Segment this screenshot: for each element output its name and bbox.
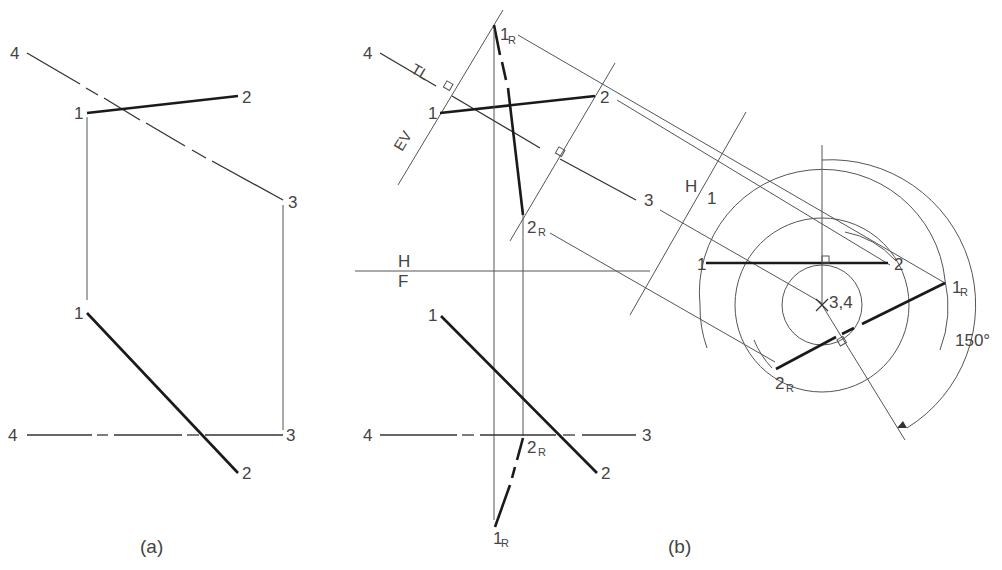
label-1r: 1 R [952,278,968,298]
label-2: 2 [600,88,609,107]
svg-text:R: R [501,537,509,549]
caption-b: (b) [668,536,691,557]
fold-label-h: H [398,252,410,271]
label-3: 3 [642,426,651,445]
view-a: 4 1 2 3 1 2 3 4 (a) [8,44,297,557]
label-1: 1 [428,306,437,325]
angle-label: 150° [955,331,990,350]
line-4-3-dash [86,88,98,95]
fold-line-h-f: H F [355,252,650,291]
label-4: 4 [8,426,17,445]
rotation-arc-2 [845,232,895,260]
view-a-front: 1 2 3 4 [8,304,295,483]
line-1r-2r-dash [502,62,506,80]
svg-text:R: R [538,226,546,238]
label-3: 3 [288,193,297,212]
tl-label: TL [409,60,433,83]
label-1: 1 [697,255,706,274]
line-1r-2r-segment [495,485,510,527]
rotation-arc-1-end [940,280,948,350]
line-4-3-segment [212,161,283,200]
line-1r-2r-segment [862,283,945,324]
line-4-3-dash [192,150,206,158]
line-1r-2r-segment [508,88,523,215]
arrowhead-icon [897,421,907,428]
svg-text:R: R [508,34,516,46]
label-4: 4 [10,44,19,63]
svg-text:R: R [538,446,546,458]
line-1r-2r-segment [517,438,523,460]
label-2r: 2 R [527,218,546,238]
line-1-2 [440,96,595,113]
view-b-top: TL EV 4 1 2 3 [363,10,945,520]
fold-label-h: H [685,177,697,196]
view-b-front: 1 2 3 4 2 R 1 R [363,306,651,549]
svg-text:R: R [960,286,968,298]
svg-text:2: 2 [527,438,536,457]
line-1-2 [87,96,238,113]
rotated-reference-line [822,305,905,440]
svg-text:R: R [786,382,794,394]
line-4-3-segment [146,123,185,146]
label-2: 2 [242,464,251,483]
label-3: 3 [286,426,295,445]
projector-2-aux [617,100,890,265]
rotation-arc-1-tail [700,305,707,348]
right-angle-mark [443,81,453,91]
label-3: 3 [644,191,653,210]
label-2: 2 [242,88,251,107]
ev-label: EV [390,128,415,154]
rotation-arc-2r [754,340,772,368]
svg-text:2: 2 [775,374,784,393]
svg-text:2: 2 [527,218,536,237]
caption-a: (a) [140,536,163,557]
label-1: 1 [428,104,437,123]
projector-2r-aux [550,233,775,362]
view-b: TL EV 4 1 2 3 [355,10,990,557]
line-4-3-segment [560,159,636,200]
label-1r: 1 R [500,25,516,46]
fold-label-1: 1 [707,189,716,208]
line-1-2 [87,313,238,473]
label-2: 2 [894,255,903,274]
projector-3-aux [660,210,822,303]
view-a-top: 4 1 2 3 [10,44,297,430]
label-2: 2 [601,464,610,483]
label-1: 1 [74,304,83,323]
line-4-3-segment [27,53,80,84]
label-4: 4 [363,426,372,445]
auxiliary-view: 3,4 1 2 1 R 2 R 150° [697,145,990,440]
projector-1r-aux [518,35,945,283]
label-4: 4 [363,44,372,63]
label-1r: 1 R [493,529,509,549]
label-2r: 2 R [527,438,546,458]
label-3-4: 3,4 [829,293,853,312]
line-1r-2r-dash [512,467,515,478]
fold-label-f: F [398,272,408,291]
label-1: 1 [74,104,83,123]
ev-edge-view-line [398,10,503,185]
descriptive-geometry-figure: 4 1 2 3 1 2 3 4 (a) TL [0,0,1002,570]
